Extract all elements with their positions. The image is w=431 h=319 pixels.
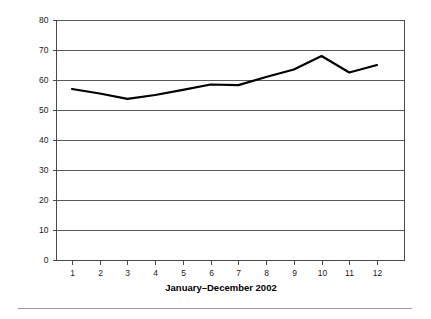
y-tick-label-20: 20 [39,195,49,205]
x-axis-title: January–December 2002 [165,282,276,293]
chart-background [0,0,431,319]
chart-figure: 01020304050607080 123456789101112 Januar… [0,0,431,319]
y-tick-label-80: 80 [39,15,49,25]
x-tick-label-5: 5 [181,268,186,278]
x-tick-label-8: 8 [264,268,269,278]
x-tick-label-4: 4 [153,268,158,278]
x-tick-label-2: 2 [98,268,103,278]
x-tick-label-10: 10 [318,268,328,278]
x-tick-label-1: 1 [70,268,75,278]
x-tick-label-11: 11 [345,268,354,278]
y-tick-label-50: 50 [39,105,49,115]
y-tick-label-30: 30 [39,165,49,175]
x-tick-label-9: 9 [292,268,297,278]
x-tick-label-12: 12 [373,268,383,278]
line-chart: 01020304050607080 123456789101112 Januar… [0,0,431,319]
y-tick-label-10: 10 [39,225,49,235]
y-tick-label-40: 40 [39,135,49,145]
y-axis-tick-labels: 01020304050607080 [39,15,49,265]
x-tick-label-6: 6 [209,268,214,278]
y-tick-label-70: 70 [39,45,49,55]
y-tick-label-0: 0 [44,255,49,265]
x-tick-label-7: 7 [236,268,241,278]
x-tick-label-3: 3 [125,268,130,278]
y-tick-label-60: 60 [39,75,49,85]
